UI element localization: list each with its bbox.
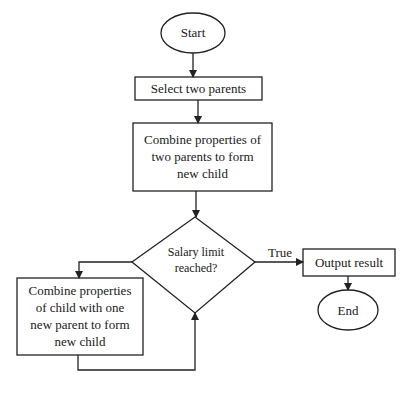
decision-label: Salary limit reached? xyxy=(160,244,232,276)
combine-parents-label: Combine properties of two parents to for… xyxy=(140,131,265,182)
start-label: Start xyxy=(161,24,225,41)
end-label: End xyxy=(318,302,378,319)
select-label: Select two parents xyxy=(135,80,262,97)
combine-child-label: Combine properties of child with one new… xyxy=(24,282,136,350)
true-label: True xyxy=(262,244,298,261)
output-label: Output result xyxy=(303,254,395,271)
arrow-decision-to-loop xyxy=(79,262,132,278)
